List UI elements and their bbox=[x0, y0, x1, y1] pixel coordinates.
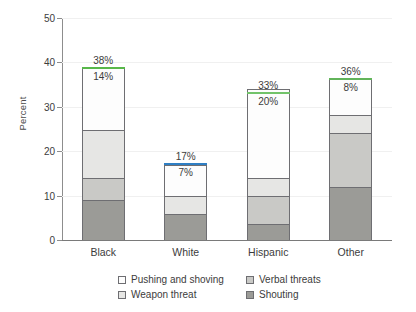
x-axis-category-label: Hispanic bbox=[248, 246, 288, 258]
legend-swatch-icon bbox=[246, 276, 254, 284]
bar-segment-verbal-threats bbox=[82, 178, 125, 200]
bar-top-cap bbox=[82, 67, 125, 69]
bar-segment-shouting bbox=[82, 200, 125, 240]
bar-total-label: 36% bbox=[341, 66, 361, 77]
bar-segment-verbal-threats bbox=[247, 196, 290, 224]
bar-white[interactable]: 17%7% bbox=[164, 164, 207, 240]
bar-top-cap bbox=[164, 163, 207, 165]
bar-segment-weapon-threat bbox=[82, 130, 125, 178]
chart-container: Percent 0102030405038%14%Black17%7%White… bbox=[0, 0, 416, 312]
legend-swatch-icon bbox=[118, 291, 126, 299]
bar-segment-shouting bbox=[164, 214, 207, 240]
bar-top-cap bbox=[329, 78, 372, 80]
chart-legend: Pushing and shovingVerbal threatsWeapon … bbox=[118, 272, 368, 302]
plot-area: 0102030405038%14%Black17%7%White33%20%Hi… bbox=[62, 18, 392, 240]
bar-segment-weapon-threat bbox=[247, 178, 290, 196]
legend-swatch-icon bbox=[246, 291, 254, 299]
y-axis-tick bbox=[57, 240, 62, 241]
y-axis-tick-label: 30 bbox=[44, 101, 55, 112]
y-axis-tick-label: 50 bbox=[44, 13, 55, 24]
bar-segment-shouting bbox=[329, 187, 372, 240]
x-axis-category-label: Other bbox=[338, 246, 364, 258]
legend-item[interactable]: Verbal threats bbox=[246, 274, 366, 285]
y-axis-tick-label: 0 bbox=[49, 235, 55, 246]
bar-segment-shouting bbox=[247, 224, 290, 240]
y-axis-tick-label: 40 bbox=[44, 57, 55, 68]
y-axis-tick bbox=[57, 62, 62, 63]
legend-item[interactable]: Pushing and shoving bbox=[118, 274, 246, 285]
legend-item[interactable]: Weapon threat bbox=[118, 289, 246, 300]
bar-hispanic[interactable]: 33%20% bbox=[247, 93, 290, 240]
x-axis-category-label: White bbox=[172, 246, 199, 258]
legend-swatch-icon bbox=[118, 276, 126, 284]
legend-label: Shouting bbox=[259, 289, 298, 300]
legend-label: Pushing and shoving bbox=[131, 274, 224, 285]
bar-total-label: 33% bbox=[258, 80, 278, 91]
bar-total-label: 38% bbox=[93, 55, 113, 66]
bar-segment-weapon-threat bbox=[164, 196, 207, 215]
y-axis-tick-label: 10 bbox=[44, 190, 55, 201]
bar-top-cap bbox=[247, 92, 290, 94]
bar-black[interactable]: 38%14% bbox=[82, 68, 125, 240]
y-axis-tick-label: 20 bbox=[44, 146, 55, 157]
bar-segment-label: 7% bbox=[179, 167, 193, 178]
y-axis-title: Percent bbox=[17, 74, 28, 154]
y-axis-tick bbox=[57, 107, 62, 108]
bar-segment-weapon-threat bbox=[329, 115, 372, 134]
y-axis-line bbox=[62, 18, 63, 240]
y-axis-tick bbox=[57, 196, 62, 197]
x-axis-line bbox=[61, 240, 392, 241]
y-axis-tick bbox=[57, 151, 62, 152]
legend-label: Verbal threats bbox=[259, 274, 321, 285]
bar-segment-label: 20% bbox=[258, 96, 278, 107]
bar-segment-label: 14% bbox=[93, 71, 113, 82]
legend-label: Weapon threat bbox=[131, 289, 196, 300]
y-axis-tick bbox=[57, 18, 62, 19]
bar-total-label: 17% bbox=[176, 151, 196, 162]
bar-segment-verbal-threats bbox=[329, 133, 372, 186]
gridline bbox=[62, 18, 392, 19]
bar-segment-label: 8% bbox=[344, 82, 358, 93]
bar-other[interactable]: 36%8% bbox=[329, 79, 372, 240]
x-axis-category-label: Black bbox=[90, 246, 116, 258]
legend-item[interactable]: Shouting bbox=[246, 289, 366, 300]
